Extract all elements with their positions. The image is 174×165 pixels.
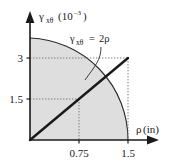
y-axis-label-paren-close: ) (83, 10, 87, 23)
y-axis-label-subscript: xθ (46, 16, 54, 25)
y-tick-label-1point5: 1.5 (9, 93, 23, 105)
x-axis-label-symbol: ρ (136, 123, 142, 135)
equation-subscript: xθ (76, 38, 84, 47)
x-tick-label-0point75: 0.75 (69, 147, 89, 159)
x-axis-label: ρ (in) (136, 123, 159, 136)
x-axis-label-unit: (in) (143, 123, 159, 136)
equation-symbol: γ (69, 33, 75, 44)
x-tick-label-1point5: 1.5 (121, 147, 135, 159)
shear-strain-figure: 3 1.5 0.75 1.5 γ xθ (10 –3 ) ρ (in) γ xθ… (0, 0, 174, 165)
y-tick-label-3: 3 (18, 52, 24, 64)
equation-equals: = (89, 33, 95, 44)
y-axis-label-scale: (10 (58, 10, 73, 23)
figure-canvas: 3 1.5 0.75 1.5 γ xθ (10 –3 ) ρ (in) γ xθ… (0, 0, 174, 165)
y-axis-label-exponent: –3 (73, 9, 82, 17)
equation-rhs: 2ρ (99, 33, 110, 44)
y-axis-label-symbol: γ (38, 10, 44, 22)
